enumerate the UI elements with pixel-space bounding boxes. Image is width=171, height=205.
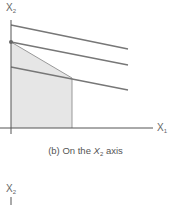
feasible-region [11, 42, 72, 128]
figure-caption: (b) On the X2 axis [0, 145, 171, 157]
y-axis-label: X2 [6, 2, 16, 14]
lp-graph [0, 0, 171, 205]
optimal-point [9, 40, 13, 44]
next-y-axis-label: X2 [6, 183, 16, 195]
x-axis-label: X1 [157, 122, 167, 134]
